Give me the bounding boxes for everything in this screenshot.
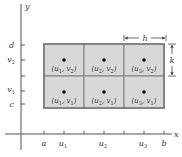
y-tick-label-v1: v1 bbox=[7, 85, 15, 95]
cell-label: (u2, v2) bbox=[92, 65, 117, 74]
width-label-h: h bbox=[142, 34, 147, 43]
midpoint-dot bbox=[142, 90, 146, 94]
cell-label: (u1, v2) bbox=[52, 65, 77, 74]
midpoint-dot bbox=[102, 90, 106, 94]
x-tick-label-a: a bbox=[42, 139, 47, 148]
x-tick-label-u2: u2 bbox=[99, 139, 107, 149]
x-axis-label: x bbox=[174, 130, 179, 139]
x-tick-label-u1: u1 bbox=[59, 139, 67, 149]
x-tick-label-b: b bbox=[161, 139, 166, 148]
cell-label: (u2, v1) bbox=[92, 97, 117, 106]
x-tick-labels: a u1 u2 u3 b bbox=[42, 139, 167, 149]
cell-label: (u3, v1) bbox=[132, 97, 157, 106]
y-tick-labels: d v2 v1 c bbox=[7, 41, 15, 109]
height-label-k: k bbox=[170, 56, 175, 65]
y-ticks bbox=[21, 45, 25, 104]
midpoint-dot bbox=[62, 58, 66, 62]
riemann-grid-diagram: (u1, v2) (u2, v2) (u3, v2) (u1, v1) (u2,… bbox=[0, 0, 182, 157]
midpoint-dot bbox=[62, 90, 66, 94]
y-tick-label-v2: v2 bbox=[7, 55, 15, 65]
cell-label: (u1, v1) bbox=[52, 97, 77, 106]
midpoint-dot bbox=[142, 58, 146, 62]
y-tick-label-d: d bbox=[9, 41, 14, 50]
x-tick-label-u3: u3 bbox=[139, 139, 147, 149]
y-axis-label: y bbox=[24, 2, 30, 11]
y-tick-label-c: c bbox=[10, 100, 15, 109]
cell-label: (u3, v2) bbox=[132, 65, 157, 74]
midpoint-dot bbox=[102, 58, 106, 62]
